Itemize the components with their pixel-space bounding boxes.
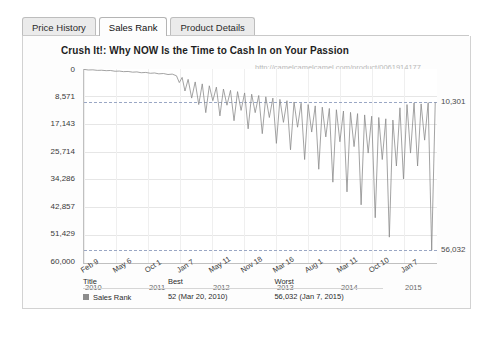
chart-title: Crush It!: Why NOW Is the Time to Cash I…	[61, 45, 349, 56]
tab-bar: Price History Sales Rank Product Details	[22, 14, 469, 36]
y-tick-label-5: 42,857	[23, 202, 75, 211]
y-tick-label-3: 25,714	[23, 147, 75, 156]
legend-worst-value: 56,032 (Jan 7, 2015)	[274, 292, 383, 301]
y-tick-label-7: 60,000	[23, 257, 75, 266]
legend-header-row: Title Best Worst	[83, 277, 383, 289]
sales-rank-chart-panel: Crush It!: Why NOW Is the Time to Cash I…	[22, 36, 471, 309]
worst-rank-marker-label: 56,032	[441, 245, 465, 254]
sales-rank-screen: Price History Sales Rank Product Details…	[0, 0, 489, 347]
legend-row-sales-rank[interactable]: Sales Rank 52 (Mar 20, 2010) 56,032 (Jan…	[83, 289, 383, 302]
current-rank-marker-label: 10,301	[441, 97, 465, 106]
tab-sales-rank[interactable]: Sales Rank	[99, 17, 168, 36]
legend-series-name: Sales Rank	[93, 293, 131, 302]
plot-area	[83, 69, 437, 264]
y-tick-label-4: 34,286	[23, 174, 75, 183]
series-color-swatch-icon	[83, 294, 89, 300]
legend-header-best: Best	[168, 277, 275, 286]
y-tick-label-1: 8,571	[23, 92, 75, 101]
y-tick-label-2: 17,143	[23, 119, 75, 128]
y-tick-label-6: 51,429	[23, 229, 75, 238]
sales-rank-series	[84, 69, 437, 263]
legend-series-title: Sales Rank	[83, 292, 168, 302]
y-tick-label-0: 0	[23, 65, 75, 74]
legend-best-value: 52 (Mar 20, 2010)	[168, 292, 275, 301]
year-label-2015: 2015	[405, 283, 422, 292]
tab-price-history[interactable]: Price History	[22, 17, 96, 36]
legend-header-worst: Worst	[274, 277, 383, 286]
tab-product-details[interactable]: Product Details	[170, 17, 254, 36]
legend-header-title: Title	[83, 277, 168, 286]
chart-legend: Title Best Worst Sales Rank 52 (Mar 20, …	[83, 277, 383, 302]
